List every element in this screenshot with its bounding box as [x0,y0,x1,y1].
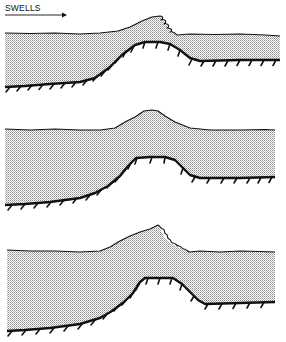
water-body [7,225,275,331]
panel-1 [5,16,280,92]
wave-shoaling-diagram [0,0,286,342]
panel-3 [7,225,275,336]
panel-2 [5,110,275,210]
water-body [5,16,280,87]
